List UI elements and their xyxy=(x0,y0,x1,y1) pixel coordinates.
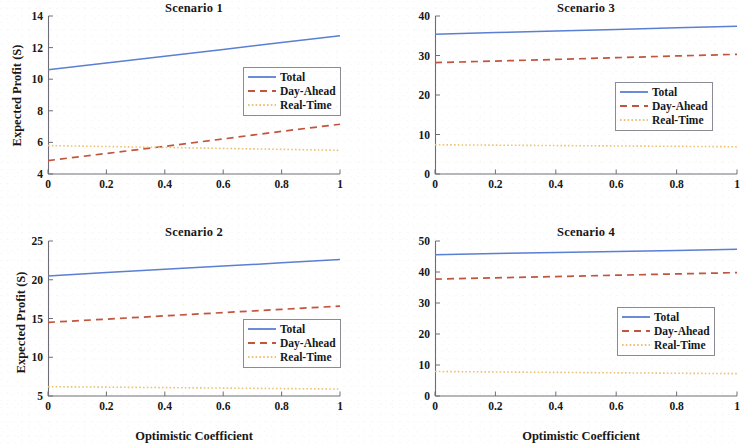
legend-item[interactable]: Total xyxy=(247,70,336,84)
legend-item[interactable]: Total xyxy=(621,310,710,324)
legend-item[interactable]: Real-Time xyxy=(247,350,336,364)
panel-title: Scenario 1 xyxy=(48,1,340,16)
legend-item[interactable]: Total xyxy=(619,85,708,99)
legend-label: Total xyxy=(654,310,679,324)
legend-swatch-dotted-icon xyxy=(619,115,649,125)
panel-scenario-2: Scenario 2 Expected Profit (S) 510152025… xyxy=(0,215,370,445)
y-tick-label: 40 xyxy=(419,10,431,22)
series-line xyxy=(48,124,340,160)
legend-swatch-dotted-icon xyxy=(247,352,277,362)
legend-swatch-dotted-icon xyxy=(247,100,277,110)
x-tick-label: 0.8 xyxy=(274,178,288,190)
y-tick-label: 10 xyxy=(419,129,431,141)
y-tick-label: 20 xyxy=(32,274,44,286)
y-tick-label: 0 xyxy=(424,390,430,402)
y-tick-label: 10 xyxy=(419,359,431,371)
x-tick-label: 1 xyxy=(734,178,740,190)
y-tick-label: 30 xyxy=(419,297,431,309)
y-axis-label: Expected Profit (S) xyxy=(14,258,29,388)
x-axis-label: Optimistic Coefficient xyxy=(435,429,727,444)
legend-label: Total xyxy=(652,85,677,99)
x-tick-label: 0.2 xyxy=(99,178,113,190)
legend-label: Real-Time xyxy=(280,350,332,364)
legend-label: Real-Time xyxy=(280,98,332,112)
y-tick-label: 20 xyxy=(419,328,431,340)
x-tick-label: 0.8 xyxy=(274,400,288,412)
y-tick-label: 40 xyxy=(419,266,431,278)
legend-label: Day-Ahead xyxy=(280,336,336,350)
x-tick-label: 0.8 xyxy=(669,400,683,412)
legend-swatch-dashed-icon xyxy=(247,338,277,348)
y-tick-label: 25 xyxy=(32,235,44,247)
legend-item[interactable]: Real-Time xyxy=(621,338,710,352)
legend-label: Real-Time xyxy=(652,113,704,127)
panel-title: Scenario 4 xyxy=(435,225,737,240)
series-line xyxy=(435,26,737,34)
legend-label: Day-Ahead xyxy=(652,99,708,113)
legend-swatch-solid-icon xyxy=(247,72,277,82)
legend-label: Day-Ahead xyxy=(654,324,710,338)
y-tick-label: 14 xyxy=(32,10,44,22)
x-tick-label: 1 xyxy=(337,400,343,412)
x-tick-label: 0.6 xyxy=(609,400,623,412)
legend-swatch-solid-icon xyxy=(619,87,649,97)
legend-swatch-dashed-icon xyxy=(619,101,649,111)
series-line xyxy=(435,54,737,62)
series-line xyxy=(48,387,340,389)
x-tick-label: 0 xyxy=(45,400,51,412)
y-tick-label: 8 xyxy=(37,105,43,117)
y-tick-label: 12 xyxy=(32,42,44,54)
series-line xyxy=(48,36,340,70)
x-tick-label: 0 xyxy=(45,178,51,190)
y-axis-label: Expected Profit (S) xyxy=(10,31,25,161)
legend-label: Real-Time xyxy=(654,338,706,352)
x-tick-label: 0.2 xyxy=(488,178,502,190)
y-tick-label: 10 xyxy=(32,351,44,363)
series-line xyxy=(435,249,737,254)
y-tick-label: 15 xyxy=(32,313,44,325)
y-tick-label: 5 xyxy=(37,390,43,402)
x-axis-label: Optimistic Coefficient xyxy=(48,429,340,444)
y-tick-label: 20 xyxy=(419,89,431,101)
x-tick-label: 1 xyxy=(337,178,343,190)
series-line xyxy=(48,260,340,276)
y-tick-label: 0 xyxy=(424,168,430,180)
legend-swatch-dotted-icon xyxy=(621,340,651,350)
panel-scenario-1: Scenario 1 Expected Profit (S) 468101214… xyxy=(0,0,370,215)
legend-item[interactable]: Day-Ahead xyxy=(619,99,708,113)
legend-label: Day-Ahead xyxy=(280,84,336,98)
legend-label: Total xyxy=(280,70,305,84)
legend: TotalDay-AheadReal-Time xyxy=(615,82,713,131)
x-tick-label: 0.4 xyxy=(549,178,563,190)
x-tick-label: 0.8 xyxy=(669,178,683,190)
y-tick-label: 6 xyxy=(37,136,43,148)
x-tick-label: 0 xyxy=(432,400,438,412)
series-line xyxy=(435,372,737,374)
legend-item[interactable]: Day-Ahead xyxy=(621,324,710,338)
legend-label: Total xyxy=(280,322,305,336)
legend: TotalDay-AheadReal-Time xyxy=(243,319,341,368)
x-tick-label: 0.2 xyxy=(488,400,502,412)
legend-item[interactable]: Real-Time xyxy=(619,113,708,127)
panel-scenario-3: Scenario 3 01020304000.20.40.60.81 Total… xyxy=(370,0,737,215)
legend-item[interactable]: Day-Ahead xyxy=(247,336,336,350)
x-tick-label: 0.2 xyxy=(99,400,113,412)
legend-item[interactable]: Day-Ahead xyxy=(247,84,336,98)
x-tick-label: 0.6 xyxy=(609,178,623,190)
x-tick-label: 0.6 xyxy=(216,400,230,412)
series-line xyxy=(435,273,737,280)
legend-swatch-solid-icon xyxy=(621,312,651,322)
x-tick-label: 0.4 xyxy=(549,400,563,412)
y-tick-label: 30 xyxy=(419,50,431,62)
y-tick-label: 4 xyxy=(37,168,43,180)
series-line xyxy=(48,146,340,151)
legend-item[interactable]: Total xyxy=(247,322,336,336)
panel-scenario-4: Scenario 4 0102030405000.20.40.60.81 Tot… xyxy=(370,215,737,445)
legend: TotalDay-AheadReal-Time xyxy=(243,67,341,116)
x-tick-label: 0.4 xyxy=(158,178,172,190)
x-tick-label: 0.6 xyxy=(216,178,230,190)
legend-item[interactable]: Real-Time xyxy=(247,98,336,112)
legend-swatch-solid-icon xyxy=(247,324,277,334)
x-tick-label: 0.4 xyxy=(158,400,172,412)
